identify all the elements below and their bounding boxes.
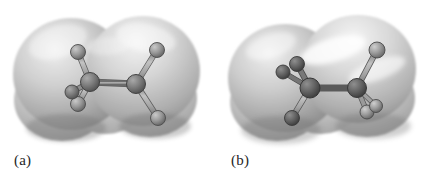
panel-a-caption: (a) bbox=[14, 153, 31, 168]
atom-hydrogen-upper-right bbox=[150, 43, 165, 58]
atom-hydrogen-lower-left bbox=[285, 111, 300, 126]
atom-hydrogen-front-right bbox=[370, 100, 383, 113]
panel-b: (b) bbox=[217, 0, 434, 174]
panel-b-ball-and-stick bbox=[217, 0, 434, 174]
atom-hydrogen-upper-left bbox=[71, 45, 86, 60]
panel-b-surface-stage bbox=[217, 0, 434, 174]
atom-carbon-right bbox=[348, 79, 367, 98]
atom-carbon-left bbox=[300, 78, 320, 98]
atom-carbon-right bbox=[127, 75, 146, 94]
atom-hydrogen-lower-right bbox=[151, 111, 166, 126]
panel-b-caption: (b) bbox=[231, 153, 249, 168]
molecular-figure: (a) bbox=[0, 0, 434, 174]
atom-hydrogen-upper-left bbox=[290, 57, 305, 72]
atom-carbon-left bbox=[81, 73, 100, 92]
atom-hydrogen-back-left bbox=[276, 65, 290, 79]
panel-a-ball-and-stick bbox=[0, 0, 217, 174]
atom-hydrogen-upper-right bbox=[369, 42, 385, 58]
panel-a: (a) bbox=[0, 0, 217, 174]
panel-a-surface-stage bbox=[0, 0, 217, 174]
atom-hydrogen-front-left bbox=[65, 85, 79, 99]
panel-b-atoms bbox=[276, 42, 385, 126]
